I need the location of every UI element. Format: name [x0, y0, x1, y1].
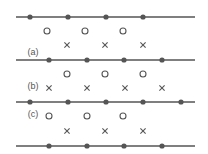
lattice-dot — [159, 57, 164, 62]
lattice-diagram: (a)(b)(c) — [0, 0, 208, 154]
lattice-dot — [27, 99, 32, 104]
cross-marker — [122, 85, 127, 90]
open-circle-marker — [46, 113, 52, 119]
lattice-dot — [46, 57, 51, 62]
lattice-dot — [140, 99, 145, 104]
open-circle-marker — [64, 71, 70, 77]
lattice-dot — [65, 99, 70, 104]
cross-marker — [46, 85, 51, 90]
cross-marker — [64, 42, 69, 47]
panel-label: (c) — [28, 109, 39, 119]
lattice-dot — [159, 143, 164, 148]
lattice-dot — [140, 14, 145, 19]
open-circle-marker — [84, 113, 90, 119]
lattice-dot — [27, 14, 32, 19]
panel-label: (a) — [28, 47, 39, 57]
lattice-dot — [84, 57, 89, 62]
cross-marker — [64, 128, 69, 133]
cross-marker — [140, 128, 145, 133]
panel-label: (b) — [28, 81, 39, 91]
open-circle-marker — [140, 71, 146, 77]
open-circle-marker — [82, 28, 88, 34]
lattice-dot — [178, 99, 183, 104]
lattice-dot — [121, 57, 126, 62]
lattice-dot — [65, 14, 70, 19]
open-circle-marker — [44, 28, 50, 34]
lattice-dot — [46, 143, 51, 148]
lattice-dot — [84, 143, 89, 148]
cross-marker — [159, 85, 164, 90]
cross-marker — [84, 85, 89, 90]
cross-marker — [102, 42, 107, 47]
open-circle-marker — [120, 113, 126, 119]
lattice-dot — [103, 99, 108, 104]
cross-marker — [102, 128, 107, 133]
lattice-dot — [121, 143, 126, 148]
cross-marker — [140, 42, 145, 47]
open-circle-marker — [120, 28, 126, 34]
open-circle-marker — [102, 71, 108, 77]
lattice-dot — [103, 14, 108, 19]
